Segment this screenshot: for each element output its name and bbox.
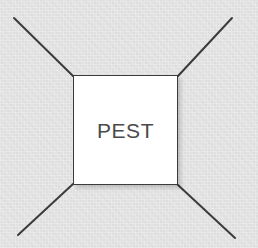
pest-center-node: PEST [73,75,178,185]
bottom-left-branch-line [18,184,73,235]
top-left-branch-line [14,18,73,76]
pest-center-node-label: PEST [97,120,154,141]
bottom-right-branch-line [178,185,235,238]
top-right-branch-line [178,18,232,76]
pest-diagram-canvas: PEST [0,0,258,248]
